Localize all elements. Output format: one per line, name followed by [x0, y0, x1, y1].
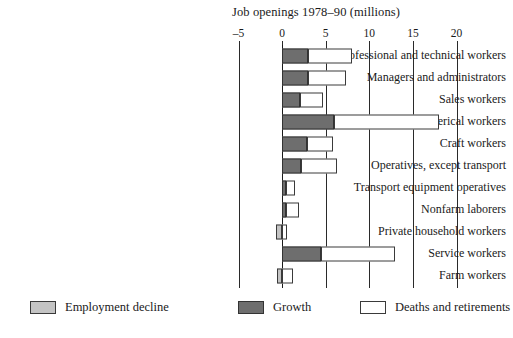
- bar-group: [0, 111, 513, 133]
- bar-segment-growth: [282, 137, 306, 152]
- legend-item[interactable]: Employment decline: [30, 296, 169, 318]
- bar-row: Clerical workers: [0, 111, 513, 133]
- x-axis-tick-label: 5: [323, 27, 329, 39]
- bar-group: [0, 265, 513, 287]
- bar-segment-deaths-and-retirements: [307, 137, 333, 152]
- bar-row: Operatives, except transport: [0, 155, 513, 177]
- legend-swatch-deaths: [360, 301, 386, 314]
- bar-group: [0, 45, 513, 67]
- x-axis-tick-label: 0: [279, 27, 285, 39]
- plot-area: Professional and technical workersManage…: [0, 45, 513, 288]
- bar-group: [0, 199, 513, 221]
- bar-row: Managers and administrators: [0, 67, 513, 89]
- legend-label: Employment decline: [65, 300, 169, 315]
- bar-segment-deaths-and-retirements: [282, 225, 287, 240]
- bar-segment-deaths-and-retirements: [286, 203, 299, 218]
- bar-group: [0, 243, 513, 265]
- bar-segment-growth: [282, 93, 299, 108]
- bar-segment-deaths-and-retirements: [301, 159, 337, 174]
- bar-row: Private household workers: [0, 221, 513, 243]
- bar-segment-deaths-and-retirements: [282, 269, 293, 284]
- bar-group: [0, 89, 513, 111]
- bar-row: Sales workers: [0, 89, 513, 111]
- bar-group: [0, 67, 513, 89]
- x-axis-tick-label: 10: [364, 27, 376, 39]
- bar-segment-growth: [282, 49, 308, 64]
- bar-row: Professional and technical workers: [0, 45, 513, 67]
- bar-group: [0, 221, 513, 243]
- bar-row: Nonfarm laborers: [0, 199, 513, 221]
- bar-row: Farm workers: [0, 265, 513, 287]
- legend-label: Growth: [273, 300, 311, 315]
- legend-swatch-growth: [238, 301, 264, 314]
- x-axis-tick-label: 15: [407, 27, 419, 39]
- bar-segment-deaths-and-retirements: [300, 93, 324, 108]
- bar-segment-growth: [282, 71, 308, 86]
- bar-chart: Job openings 1978–90 (millions) –5051015…: [0, 0, 513, 338]
- bar-segment-deaths-and-retirements: [334, 115, 439, 130]
- bar-segment-growth: [282, 247, 321, 262]
- bar-group: [0, 133, 513, 155]
- chart-legend: Employment declineGrowthDeaths and retir…: [0, 296, 513, 330]
- legend-item[interactable]: Growth: [238, 296, 311, 318]
- bar-segment-growth: [282, 159, 301, 174]
- bar-segment-deaths-and-retirements: [308, 71, 345, 86]
- legend-swatch-decline: [30, 301, 56, 314]
- bar-segment-deaths-and-retirements: [321, 247, 395, 262]
- bar-group: [0, 177, 513, 199]
- bar-row: Craft workers: [0, 133, 513, 155]
- chart-title: Job openings 1978–90 (millions): [232, 5, 400, 20]
- bar-segment-deaths-and-retirements: [286, 181, 295, 196]
- bar-row: Service workers: [0, 243, 513, 265]
- legend-item[interactable]: Deaths and retirements: [360, 296, 510, 318]
- legend-label: Deaths and retirements: [395, 300, 510, 315]
- bar-segment-growth: [282, 115, 334, 130]
- x-axis-tick-label: 20: [451, 27, 463, 39]
- bar-segment-deaths-and-retirements: [308, 49, 352, 64]
- x-axis-tick-label: –5: [233, 27, 245, 39]
- bar-group: [0, 155, 513, 177]
- bar-row: Transport equipment operatives: [0, 177, 513, 199]
